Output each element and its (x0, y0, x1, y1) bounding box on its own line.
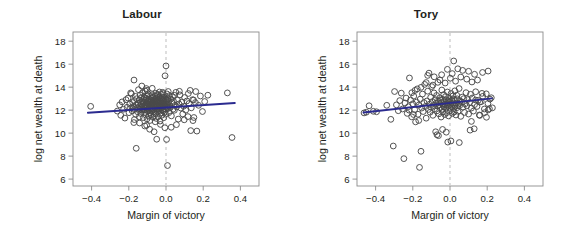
x-tick-label: 0.4 (234, 193, 248, 204)
y-tick-label: 16 (55, 59, 66, 70)
x-axis-title: Margin of victory (411, 209, 489, 221)
data-point (473, 89, 479, 95)
data-point (168, 124, 174, 130)
data-point (480, 70, 486, 76)
y-axis-title: log net wealth at death (32, 56, 44, 163)
data-point (472, 71, 478, 77)
data-point (423, 115, 429, 121)
data-point (468, 119, 474, 125)
data-point (133, 145, 139, 151)
data-point (384, 102, 390, 108)
data-point (431, 74, 437, 80)
data-point (185, 114, 191, 120)
data-point (418, 84, 424, 90)
data-point (198, 93, 204, 99)
panel-labour: Labour 681012141618−0.4−0.20.00.20.4Marg… (0, 0, 284, 239)
x-tick-label: −0.2 (119, 193, 138, 204)
data-point (229, 135, 235, 141)
x-tick-label: 0.0 (443, 193, 456, 204)
data-point (162, 73, 168, 79)
figure-root: Labour 681012141618−0.4−0.20.00.20.4Marg… (0, 0, 568, 239)
data-point (205, 92, 211, 98)
data-point (118, 112, 124, 118)
y-tick-label: 18 (339, 36, 350, 47)
x-tick-label: 0.0 (159, 193, 172, 204)
plot-area-labour: 681012141618−0.4−0.20.00.20.4Margin of v… (0, 0, 284, 239)
x-tick-label: −0.2 (403, 193, 422, 204)
data-point (224, 90, 230, 96)
x-axis-title: Margin of victory (127, 209, 205, 221)
data-point (456, 140, 462, 146)
data-point (423, 80, 429, 86)
data-point (176, 88, 182, 94)
data-point (430, 82, 436, 88)
data-point (466, 68, 472, 74)
data-point (475, 77, 481, 83)
x-tick-label: 0.2 (481, 193, 494, 204)
y-tick-label: 12 (55, 105, 66, 116)
data-point (151, 129, 157, 135)
data-point (388, 116, 394, 122)
y-tick-label: 8 (60, 151, 65, 162)
data-point (418, 148, 424, 154)
data-point (194, 128, 200, 134)
panel-tory: Tory 681012141618−0.4−0.20.00.20.4Margin… (284, 0, 568, 239)
data-point (451, 58, 457, 64)
data-point (390, 143, 396, 149)
data-point (175, 116, 181, 122)
data-point (164, 137, 170, 143)
data-point (122, 115, 128, 121)
data-point (485, 68, 491, 74)
data-point (154, 136, 160, 142)
y-tick-label: 6 (344, 174, 349, 185)
x-tick-label: 0.2 (197, 193, 210, 204)
data-point (422, 82, 428, 88)
data-point (200, 109, 206, 115)
data-point (407, 75, 413, 81)
plot-area-tory: 681012141618−0.4−0.20.00.20.4Margin of v… (284, 0, 568, 239)
y-tick-label: 18 (55, 36, 66, 47)
scatter-points (88, 63, 235, 168)
data-point (131, 77, 137, 83)
data-point (193, 89, 199, 95)
data-point (464, 76, 470, 82)
y-tick-label: 14 (339, 82, 350, 93)
data-point (458, 74, 464, 80)
data-point (165, 163, 171, 169)
y-tick-label: 14 (55, 82, 66, 93)
data-point (398, 90, 404, 96)
scatter-points (361, 58, 495, 170)
y-tick-label: 8 (344, 151, 349, 162)
y-tick-label: 12 (339, 105, 350, 116)
data-point (136, 87, 142, 93)
y-tick-label: 16 (339, 59, 350, 70)
y-axis-title: log net wealth at death (316, 56, 328, 163)
data-point (411, 93, 417, 99)
x-tick-label: −0.4 (366, 193, 386, 204)
data-point (181, 117, 187, 123)
data-point (417, 164, 423, 170)
data-point (202, 99, 208, 105)
data-point (392, 89, 398, 95)
data-point (445, 66, 451, 72)
data-point (401, 156, 407, 162)
data-point (137, 120, 143, 126)
y-tick-label: 10 (55, 128, 66, 139)
y-tick-label: 10 (339, 128, 350, 139)
data-point (88, 103, 94, 109)
x-tick-label: −0.4 (82, 193, 102, 204)
data-point (366, 103, 372, 109)
data-point (188, 128, 194, 134)
y-tick-label: 6 (60, 174, 65, 185)
x-tick-label: 0.4 (518, 193, 532, 204)
